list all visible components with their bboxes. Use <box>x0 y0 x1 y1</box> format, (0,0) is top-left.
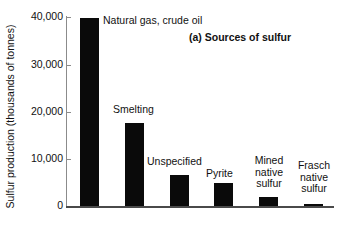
y-tick-label-0: 0 <box>3 199 63 211</box>
panel-title: (a) Sources of sulfur <box>189 31 291 43</box>
y-tick-label-30000: 30,000 <box>3 58 63 70</box>
bar-pyrite <box>214 183 233 206</box>
bar-natural-gas-crude-oil <box>80 18 99 206</box>
label-pyrite: Pyrite <box>206 168 233 180</box>
chart-figure: Sulfur production (thousands of tonnes) … <box>0 0 337 233</box>
y-tick-mark-30000 <box>66 65 71 66</box>
bar-smelting <box>125 123 144 206</box>
y-tick-30000: 30,000 <box>0 58 63 71</box>
label-smelting: Smelting <box>113 104 154 116</box>
y-tick-mark-10000 <box>66 159 71 160</box>
label-frasch-line-3: sulfur <box>293 183 335 195</box>
y-tick-mark-40000 <box>66 17 71 18</box>
label-mined-native-sulfur: Mined native sulfur <box>249 155 289 190</box>
y-tick-mark-20000 <box>66 112 71 113</box>
x-axis-line <box>66 206 334 208</box>
y-tick-10000: 10,000 <box>0 152 63 165</box>
y-tick-20000: 20,000 <box>0 105 63 118</box>
y-tick-label-10000: 10,000 <box>3 152 63 164</box>
label-frasch-line-1: Frasch <box>293 160 335 172</box>
bar-unspecified <box>170 175 189 206</box>
label-natural-gas-crude-oil: Natural gas, crude oil <box>103 15 202 27</box>
y-tick-0: 0 <box>0 199 63 212</box>
label-mined-line-3: sulfur <box>249 178 289 190</box>
y-tick-label-40000: 40,000 <box>3 10 63 22</box>
y-tick-label-20000: 20,000 <box>3 105 63 117</box>
label-unspecified: Unspecified <box>147 156 202 168</box>
label-mined-line-1: Mined <box>249 155 289 167</box>
label-frasch-native-sulfur: Frasch native sulfur <box>293 160 335 195</box>
bar-mined-native-sulfur <box>259 197 278 206</box>
y-tick-40000: 40,000 <box>0 10 63 23</box>
